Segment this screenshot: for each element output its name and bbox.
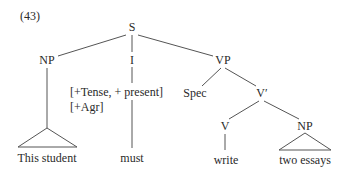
edge-vbar-v — [229, 101, 259, 119]
terminal-two-essays: two essays — [279, 153, 331, 167]
node-vp: VP — [215, 53, 231, 67]
node-np-subject: NP — [39, 53, 55, 67]
edge-s-vp — [138, 35, 213, 56]
np-object-triangle — [279, 133, 331, 150]
node-s: S — [129, 20, 136, 34]
syntax-tree-diagram: (43) S NP This student I [+Tense, + pres… — [0, 0, 348, 178]
example-number: (43) — [20, 9, 40, 23]
node-np-object: NP — [297, 119, 313, 133]
terminal-write: write — [214, 153, 239, 167]
infl-feature-agr: [+Agr] — [70, 100, 103, 114]
edge-vp-vbar — [225, 68, 256, 86]
edge-vbar-np — [264, 101, 299, 119]
terminal-must: must — [120, 151, 144, 165]
node-i: I — [130, 53, 134, 67]
node-spec: Spec — [183, 86, 206, 100]
node-vbar: V′ — [256, 86, 268, 100]
node-v: V — [221, 119, 230, 133]
edge-s-np — [58, 35, 126, 56]
np-triangle — [18, 128, 77, 147]
infl-feature-tense: [+Tense, + present] — [70, 85, 163, 99]
terminal-this-student: This student — [18, 151, 78, 165]
edge-vp-spec — [202, 68, 221, 86]
